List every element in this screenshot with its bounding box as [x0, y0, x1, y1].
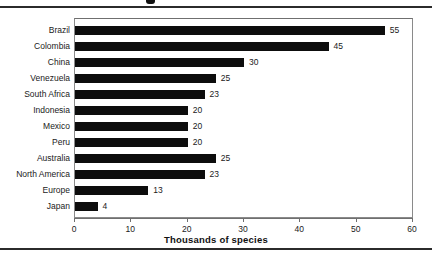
category-label: Peru [0, 134, 70, 150]
top-divider-rule [0, 6, 432, 8]
bar [75, 186, 148, 195]
bar-row: Peru20 [0, 134, 432, 150]
bar-value-label: 30 [249, 54, 258, 70]
bar [75, 74, 216, 83]
bar-row: Japan4 [0, 198, 432, 214]
bar-value-label: 25 [221, 150, 230, 166]
category-label: Australia [0, 150, 70, 166]
bar-value-label: 20 [193, 102, 202, 118]
bar [75, 154, 216, 163]
bar-value-label: 4 [103, 198, 108, 214]
chart-figure: Brazil55Colombia45China30Venezuela25Sout… [0, 0, 432, 256]
bottom-divider-rule [0, 248, 432, 250]
category-label: South Africa [0, 86, 70, 102]
x-axis-tick-label: 0 [54, 224, 94, 234]
x-axis-tick [412, 218, 413, 222]
x-axis-tick [74, 218, 75, 222]
x-axis-tick [130, 218, 131, 222]
bar-value-label: 20 [193, 118, 202, 134]
category-label: Japan [0, 198, 70, 214]
bar-value-label: 23 [210, 86, 219, 102]
x-axis-tick-label: 50 [336, 224, 376, 234]
bar-row: Mexico20 [0, 118, 432, 134]
x-axis-tick-label: 10 [110, 224, 150, 234]
category-label: North America [0, 166, 70, 182]
x-axis-tick [187, 218, 188, 222]
bar [75, 90, 205, 99]
bar [75, 170, 205, 179]
bar-value-label: 55 [390, 22, 399, 38]
x-axis-tick [243, 218, 244, 222]
category-label: Europe [0, 182, 70, 198]
bar [75, 122, 188, 131]
x-axis-tick-label: 30 [223, 224, 263, 234]
x-axis-tick [299, 218, 300, 222]
bar-rows-container: Brazil55Colombia45China30Venezuela25Sout… [0, 18, 432, 218]
category-label: China [0, 54, 70, 70]
bar [75, 202, 98, 211]
category-label: Colombia [0, 38, 70, 54]
bar-row: Venezuela25 [0, 70, 432, 86]
bar-row: Australia25 [0, 150, 432, 166]
bar [75, 42, 329, 51]
bar-row: South Africa23 [0, 86, 432, 102]
x-axis-tick-label: 40 [279, 224, 319, 234]
bar-value-label: 20 [193, 134, 202, 150]
bar [75, 106, 188, 115]
bar-value-label: 13 [153, 182, 162, 198]
bar [75, 26, 385, 35]
bar-value-label: 45 [334, 38, 343, 54]
x-axis-title: Thousands of species [0, 234, 432, 245]
x-axis-tick-label: 60 [392, 224, 432, 234]
x-axis-tick-label: 20 [167, 224, 207, 234]
bar-row: Europe13 [0, 182, 432, 198]
bar [75, 58, 244, 67]
category-label: Brazil [0, 22, 70, 38]
bar-row: China30 [0, 54, 432, 70]
category-label: Indonesia [0, 102, 70, 118]
bar-row: Brazil55 [0, 22, 432, 38]
x-axis-tick [356, 218, 357, 222]
category-label: Venezuela [0, 70, 70, 86]
bar-value-label: 25 [221, 70, 230, 86]
bar-value-label: 23 [210, 166, 219, 182]
bar [75, 138, 188, 147]
cropped-title-glyph [146, 0, 155, 4]
bar-row: Indonesia20 [0, 102, 432, 118]
bar-row: North America23 [0, 166, 432, 182]
bar-row: Colombia45 [0, 38, 432, 54]
category-label: Mexico [0, 118, 70, 134]
